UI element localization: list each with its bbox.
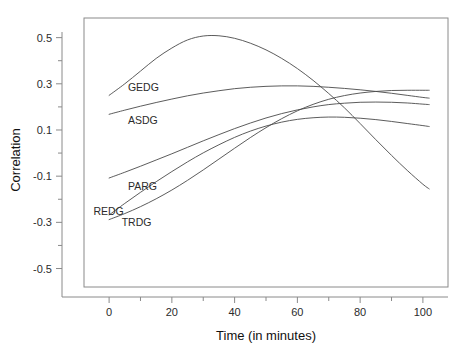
x-tick-label: 40: [228, 306, 240, 318]
series-line-trdg: [109, 90, 429, 219]
series-label-trdg: TRDG: [122, 216, 152, 228]
y-tick-label: 0.3: [37, 78, 52, 90]
y-tick-label: -0.3: [33, 216, 52, 228]
y-axis-title: Correlation: [8, 128, 23, 192]
axis-titles-group: Time (in minutes) Correlation: [8, 128, 316, 343]
x-tick-label: 80: [354, 306, 366, 318]
series-label-parg: PARG: [128, 180, 157, 192]
series-line-gedg: [109, 35, 429, 188]
y-tick-label: 0.1: [37, 124, 52, 136]
series-labels-group: GEDGASDGPARGREDGTRDG: [93, 81, 158, 228]
x-tick-label: 20: [166, 306, 178, 318]
y-tick-label: -0.1: [33, 170, 52, 182]
series-line-redg: [109, 117, 429, 215]
chart-figure: 0204060801000.50.30.1-0.1-0.3-0.5 GEDGAS…: [0, 0, 466, 357]
x-tick-label: 60: [291, 306, 303, 318]
y-tick-label: 0.5: [37, 32, 52, 44]
correlation-line-chart: 0204060801000.50.30.1-0.1-0.3-0.5 GEDGAS…: [0, 0, 466, 357]
series-label-gedg: GEDG: [128, 81, 159, 93]
x-tick-label: 0: [106, 306, 112, 318]
y-tick-label: -0.5: [33, 263, 52, 275]
series-label-redg: REDG: [93, 205, 123, 217]
series-label-asdg: ASDG: [128, 114, 158, 126]
x-tick-label: 100: [414, 306, 432, 318]
x-axis-title: Time (in minutes): [216, 328, 316, 343]
axes-group: 0204060801000.50.30.1-0.1-0.3-0.5: [33, 18, 448, 318]
series-curves-group: [109, 35, 429, 219]
